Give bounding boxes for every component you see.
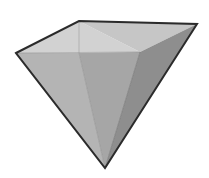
gem-illustration xyxy=(0,0,209,178)
gem-svg xyxy=(0,0,209,178)
